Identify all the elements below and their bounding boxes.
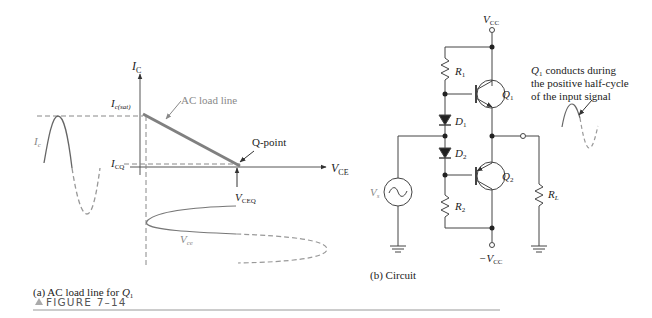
ground-icon (390, 246, 406, 252)
ac-load-line-pointer (166, 101, 181, 119)
q2-label: Q2 (502, 170, 514, 184)
vceq-label: VCEQ (235, 191, 256, 205)
rl-label: RL (547, 188, 559, 202)
circuit-labels: VCC −VCC R1 R2 RL D1 D2 Q1 Q2 Vs Q1condu… (370, 13, 632, 282)
junction-dots (443, 45, 495, 231)
panel-b-caption: (b) Circuit (370, 269, 416, 282)
vce-axis-label: VCE (331, 161, 349, 177)
ic-waveform-solid (44, 116, 72, 168)
ic-axis-label: IC (131, 59, 141, 75)
ground-icon (531, 246, 547, 252)
output-waveform-solid (562, 104, 580, 127)
d1-label: D1 (454, 115, 467, 129)
q2-transistor (477, 162, 505, 190)
output-terminal (521, 134, 526, 139)
d1-diode (439, 115, 451, 125)
figure-number: FIGURE 7–14 (46, 296, 127, 308)
r1-label: R1 (454, 65, 466, 79)
ic-waveform-label: Ic (33, 135, 42, 149)
ac-load-line-label: AC load line (181, 94, 237, 106)
q1-label: Q1 (502, 88, 514, 102)
figure-canvas: IC VCE Ic(sat) ICQ VCEQ Ic Vce AC load l… (0, 0, 652, 318)
q-point-pointer (240, 151, 254, 162)
q-point-label: Q-point (252, 136, 286, 148)
icq-label: ICQ (110, 157, 124, 171)
d2-label: D2 (454, 147, 467, 161)
q1-transistor (477, 80, 505, 108)
panel-a-load-line-graph: IC VCE Ic(sat) ICQ VCEQ Ic Vce AC load l… (33, 59, 349, 300)
ic-waveform-dashed (72, 168, 100, 214)
vce-waveform-solid-lower (147, 224, 236, 234)
figure-label: FIGURE 7–14 (33, 296, 500, 310)
r2-resistor (441, 186, 449, 228)
neg-vcc-terminal (490, 243, 495, 248)
neg-vcc-label: −VCC (479, 252, 503, 266)
r2-label: R2 (454, 200, 466, 214)
panel-b-circuit (384, 28, 598, 253)
r1-resistor (441, 58, 449, 94)
vce-waveform-solid-upper (146, 206, 236, 224)
ac-load-line (143, 114, 240, 166)
triangle-up-icon (35, 298, 43, 305)
output-waveform-dashed (580, 118, 598, 148)
vs-label: Vs (370, 186, 380, 200)
vcc-terminal (490, 28, 495, 33)
vce-waveform-dashed (236, 234, 327, 263)
vce-waveform-label: Vce (180, 233, 193, 247)
rl-resistor (535, 184, 543, 246)
ic-sat-label: Ic(sat) (110, 97, 131, 111)
note-text: Q1conducts during the positive half-cycl… (531, 64, 632, 102)
vcc-label: VCC (483, 13, 499, 27)
d2-diode (439, 148, 451, 158)
sine-icon (389, 188, 407, 197)
note-pointer (579, 100, 592, 115)
